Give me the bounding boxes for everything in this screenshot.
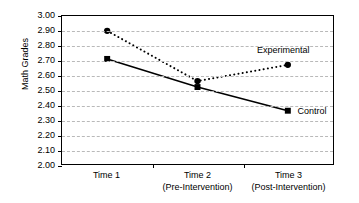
x-tick-label-primary: Time 1 (93, 170, 120, 180)
x-axis-tick-mark (153, 164, 154, 168)
y-axis-tick-label: 3.00 (23, 11, 55, 20)
plot-area: ExperimentalControl (61, 15, 334, 165)
gridline (62, 91, 333, 92)
x-axis-tick-label: Time 3(Post-Intervention) (243, 169, 334, 193)
data-point-marker-experimental (194, 78, 200, 84)
y-axis-tick-mark (58, 151, 62, 152)
gridline (62, 76, 333, 77)
y-axis-tick-mark (58, 106, 62, 107)
y-axis-tick-label: 2.80 (23, 41, 55, 50)
x-tick-label-secondary: (Post-Intervention) (243, 181, 334, 193)
y-axis-tick-mark (58, 136, 62, 137)
y-axis-tick-mark (58, 91, 62, 92)
y-axis-tick-mark (58, 61, 62, 62)
x-axis-tick-label: Time 2(Pre-Intervention) (152, 169, 243, 193)
gridline (62, 136, 333, 137)
gridline (62, 151, 333, 152)
y-axis-tick-mark (58, 76, 62, 77)
x-tick-label-primary: Time 3 (275, 170, 302, 180)
gridline (62, 61, 333, 62)
x-tick-label-secondary: (Pre-Intervention) (152, 181, 243, 193)
gridline (62, 31, 333, 32)
y-axis-tick-mark (58, 166, 62, 167)
math-grades-line-chart: Math Grades 3.002.902.802.702.602.502.40… (0, 0, 359, 203)
y-axis-tick-label: 2.60 (23, 71, 55, 80)
y-axis-tick-mark (58, 31, 62, 32)
y-axis-tick-label: 2.00 (23, 161, 55, 170)
y-axis-tick-label: 2.30 (23, 116, 55, 125)
series-annotation-control: Control (298, 107, 327, 116)
data-point-marker-experimental (285, 62, 291, 68)
x-axis-tick-mark (244, 164, 245, 168)
data-point-marker-control (285, 108, 291, 114)
series-layer (62, 16, 333, 164)
y-axis-tick-mark (58, 46, 62, 47)
y-axis-tick-label: 2.20 (23, 131, 55, 140)
gridline (62, 121, 333, 122)
series-line-experimental (107, 31, 288, 81)
y-axis-tick-label: 2.90 (23, 26, 55, 35)
y-axis-tick-label: 2.40 (23, 101, 55, 110)
gridline (62, 106, 333, 107)
y-axis-tick-mark (58, 121, 62, 122)
y-axis-tick-labels: 3.002.902.802.702.602.502.402.302.202.10… (23, 0, 55, 203)
x-axis-tick-label: Time 1 (61, 169, 152, 181)
y-axis-tick-mark (58, 16, 62, 17)
x-tick-label-primary: Time 2 (184, 170, 211, 180)
series-annotation-experimental: Experimental (257, 46, 310, 55)
y-axis-tick-label: 2.50 (23, 86, 55, 95)
data-point-marker-control (195, 84, 201, 90)
x-axis-tick-labels: Time 1Time 2(Pre-Intervention)Time 3(Pos… (61, 169, 334, 203)
y-axis-tick-label: 2.70 (23, 56, 55, 65)
y-axis-tick-label: 2.10 (23, 146, 55, 155)
